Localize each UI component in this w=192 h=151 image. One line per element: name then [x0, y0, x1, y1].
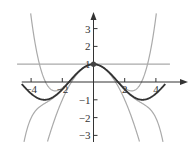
x-tick-label: 4 [153, 83, 159, 95]
x-tick-label: −4 [25, 83, 37, 95]
x-axis-arrow-icon [180, 79, 188, 85]
y-tick-label: 1 [85, 58, 91, 70]
y-axis-arrow-icon [91, 12, 97, 20]
x-tick-label: 2 [122, 83, 128, 95]
y-tick-label: −1 [79, 94, 91, 106]
y-tick-label: −2 [79, 112, 91, 124]
y-tick-label: −3 [79, 129, 91, 141]
point-marker [91, 62, 96, 67]
y-tick-label: 3 [85, 23, 91, 35]
y-tick-label: 2 [85, 40, 91, 52]
taylor-polynomial-plot: −4−224−3−2−1123 [0, 0, 192, 151]
x-tick-label: −2 [56, 83, 68, 95]
